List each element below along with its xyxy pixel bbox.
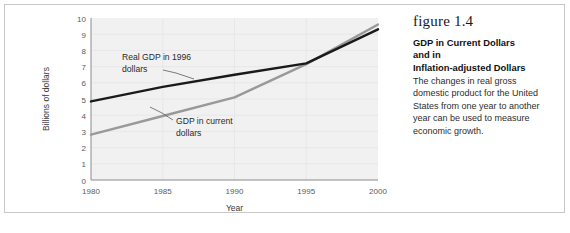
caption-title-line-1: GDP in Current Dollars	[413, 37, 515, 48]
annotation-current-gdp-line2: dollars	[176, 128, 201, 138]
chart-area: 10 9 8 7 6 5 4 3 2 1 0 1980 1985 1990 19…	[0, 0, 400, 213]
y-tick-label: 8	[82, 47, 87, 56]
y-tick-label: 1	[82, 160, 87, 169]
y-tick-labels: 10 9 8 7 6 5 4 3 2 1 0	[77, 15, 86, 186]
y-axis-title: Billions of dollars	[41, 67, 51, 131]
x-axis-title: Year	[226, 203, 243, 213]
figure-caption-block: figure 1.4 GDP in Current Dollars and in…	[413, 14, 555, 137]
x-tick-label: 1995	[297, 187, 315, 196]
y-tick-label: 9	[82, 31, 87, 40]
gdp-line-chart: 10 9 8 7 6 5 4 3 2 1 0 1980 1985 1990 19…	[0, 0, 400, 213]
figure-number-label: figure 1.4	[413, 14, 555, 30]
x-tick-label: 2000	[369, 187, 387, 196]
y-tick-label: 7	[82, 63, 87, 72]
y-tick-label: 3	[82, 128, 87, 137]
y-tick-label: 5	[82, 96, 87, 105]
y-tick-label: 10	[77, 15, 86, 24]
y-tick-label: 6	[82, 79, 87, 88]
y-tick-label: 2	[82, 144, 87, 153]
y-tick-label: 4	[82, 112, 87, 121]
x-tick-label: 1985	[154, 187, 172, 196]
figure-root: 10 9 8 7 6 5 4 3 2 1 0 1980 1985 1990 19…	[0, 0, 570, 233]
caption-title-line-3: Inflation-adjusted Dollars	[413, 62, 526, 73]
y-tick-label: 0	[82, 177, 87, 186]
x-tick-label: 1990	[226, 187, 244, 196]
figure-caption-title: GDP in Current Dollars and in Inflation-…	[413, 37, 555, 74]
x-tick-label: 1980	[82, 187, 100, 196]
annotation-real-gdp-line2: dollars	[122, 64, 147, 74]
figure-caption-body: The changes in real gross domestic produ…	[413, 75, 555, 137]
annotation-current-gdp-line1: GDP in current	[176, 116, 233, 126]
x-tick-labels: 1980 1985 1990 1995 2000	[82, 187, 387, 196]
caption-title-line-2: and in	[413, 49, 441, 60]
annotation-real-gdp-line1: Real GDP in 1996	[122, 52, 191, 62]
